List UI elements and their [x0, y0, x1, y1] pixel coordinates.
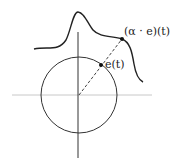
scaled-point-label: (α · e)(t)	[124, 25, 170, 38]
diagram-canvas: e(t) (α · e)(t)	[0, 0, 177, 167]
unit-point-marker	[99, 63, 103, 67]
scaled-curve	[34, 12, 143, 82]
unit-point-label: e(t)	[105, 58, 125, 71]
